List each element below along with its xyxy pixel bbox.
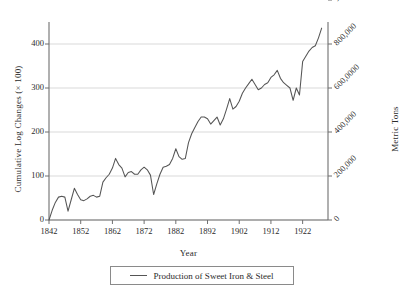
x-tick-label: 1842 — [35, 226, 63, 236]
y-tick-label-left: 300 — [14, 82, 44, 92]
x-tick-label: 1852 — [67, 226, 95, 236]
x-tick-label: 1902 — [225, 226, 253, 236]
y-tick-label-left: 200 — [14, 126, 44, 136]
x-axis-title: Year — [49, 248, 328, 258]
y-tick-label-left: 400 — [14, 38, 44, 48]
x-tick-label: 1862 — [98, 226, 126, 236]
y-axis-right-title: Metric Tons — [390, 34, 400, 224]
series-line-production — [49, 28, 322, 220]
gridlines — [49, 44, 328, 220]
x-tick-label: 1872 — [130, 226, 158, 236]
tick-marks — [45, 0, 332, 224]
x-tick-label: 1892 — [194, 226, 222, 236]
axis-lines — [49, 22, 328, 220]
legend-entry-label: Production of Sweet Iron & Steel — [153, 271, 273, 281]
chart-legend: Production of Sweet Iron & Steel — [110, 266, 294, 285]
chart-figure: Cumulative Log Changes (× 100) Metric To… — [0, 0, 404, 294]
y-tick-label-left: 0 — [14, 214, 44, 224]
y-tick-label-left: 100 — [14, 170, 44, 180]
x-tick-label: 1912 — [257, 226, 285, 236]
x-tick-label: 1922 — [289, 226, 317, 236]
x-tick-label: 1882 — [162, 226, 190, 236]
line-swatch-icon — [130, 275, 147, 276]
